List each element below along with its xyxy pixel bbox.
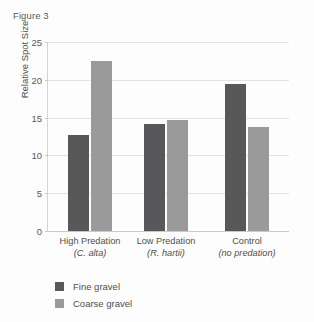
y-tick-label-25: 25 — [31, 37, 42, 48]
bar-group-3 — [225, 42, 269, 231]
legend-swatch-icon — [55, 282, 64, 291]
bar-fine-2[interactable] — [144, 124, 165, 231]
figure-container: Figure 3 Relative Spot Size 0510152025Hi… — [0, 0, 314, 322]
legend-label: Fine gravel — [73, 281, 120, 292]
y-tick-mark-0 — [45, 231, 48, 232]
legend-item-1[interactable]: Fine gravel — [55, 278, 132, 295]
bar-fine-3[interactable] — [225, 84, 246, 231]
y-tick-mark-15 — [45, 118, 48, 119]
bar-group-2 — [144, 42, 188, 231]
y-tick-label-15: 15 — [31, 112, 42, 123]
y-axis-title: Relative Spot Size — [19, 0, 30, 135]
y-tick-mark-5 — [45, 193, 48, 194]
y-tick-label-10: 10 — [31, 150, 42, 161]
y-tick-label-5: 5 — [37, 188, 42, 199]
legend-swatch-icon — [55, 299, 64, 308]
bar-coarse-3[interactable] — [248, 127, 269, 231]
y-tick-mark-25 — [45, 42, 48, 43]
x-axis-label-3: Control(no predation) — [192, 235, 302, 259]
x-axis-label-sub: (no predation) — [192, 247, 302, 259]
y-tick-mark-10 — [45, 155, 48, 156]
bar-fine-1[interactable] — [68, 135, 89, 231]
legend-label: Coarse gravel — [73, 298, 132, 309]
gridline-0 — [48, 231, 289, 232]
y-tick-mark-20 — [45, 80, 48, 81]
bar-coarse-1[interactable] — [91, 61, 112, 231]
chart-legend: Fine gravelCoarse gravel — [55, 278, 132, 312]
plot-area: 0510152025High Predation(C. alta)Low Pre… — [47, 42, 288, 231]
bar-group-1 — [68, 42, 112, 231]
x-axis-label-main: Control — [192, 235, 302, 247]
bar-coarse-2[interactable] — [167, 120, 188, 231]
legend-item-2[interactable]: Coarse gravel — [55, 295, 132, 312]
y-tick-label-20: 20 — [31, 74, 42, 85]
